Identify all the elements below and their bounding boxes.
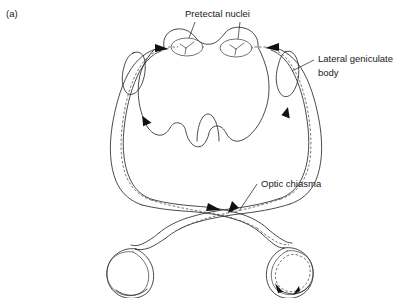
label-pretectal-nuclei: Pretectal nuclei	[185, 8, 250, 19]
pretectal-nucleus-right-marking	[230, 43, 244, 55]
leader-lateral-geniculate	[292, 60, 314, 71]
optic-tract-left-outer-edge	[110, 48, 160, 205]
lateral-geniculate-left-outline	[122, 52, 145, 94]
leader-pretectal-right	[238, 22, 240, 39]
eyeball-right	[266, 248, 313, 298]
lateral-geniculate-left	[122, 52, 145, 94]
pretectal-nucleus-right	[220, 39, 252, 57]
label-optic-chiasma: Optic chiasma	[261, 178, 322, 189]
eyeball-left	[107, 249, 154, 298]
eyeball-left-cornea-edge	[116, 289, 147, 295]
eyeball-right-retina-dashed	[275, 254, 310, 291]
chiasma-arrowhead-left	[206, 203, 221, 211]
optic-tract-left-fibre	[121, 49, 162, 200]
optic-nerve-right	[257, 228, 292, 248]
label-lateral-geniculate-body-line1: Lateral geniculate	[318, 53, 393, 64]
optic-nerve-right-upper	[269, 230, 292, 243]
optic-tract-left-inner-edge	[123, 51, 161, 200]
pretectal-nucleus-left-marking	[180, 42, 194, 54]
lateral-geniculate-right	[276, 51, 299, 97]
eyeball-left-sclera-inner	[107, 252, 149, 296]
optic-chiasma	[142, 199, 290, 238]
optic-tract-left-arrowhead	[139, 113, 151, 126]
lateral-geniculate-right-outline	[276, 51, 299, 97]
eyeball-right-arrowhead-left	[275, 283, 283, 293]
optic-nerve-left-upper	[131, 233, 159, 246]
optic-tract-left	[110, 44, 178, 205]
chiasma-fibre-crossing-b	[178, 199, 281, 230]
optic-nerve-right-fibre	[257, 228, 289, 245]
visual-pathway-diagram: (a)	[0, 0, 400, 298]
eyeball-right-sclera-outer	[266, 248, 313, 298]
panel-tag: (a)	[6, 8, 18, 19]
figure-container: (a)	[0, 0, 400, 298]
chiasma-band-left-lower	[142, 205, 261, 233]
optic-nerve-right-lower	[261, 233, 284, 248]
label-lateral-geniculate-body-line2: body	[318, 67, 339, 78]
pretectal-right-arrowhead	[265, 43, 279, 51]
pretectal-nucleus-left	[171, 38, 203, 56]
eyeball-left-sclera-outer	[107, 249, 154, 298]
optic-nerve-left	[131, 233, 166, 250]
optic-tract-right-arrowhead	[281, 106, 293, 119]
pretectal-left-arrowhead	[155, 44, 169, 52]
optic-tract-right-fibre	[270, 48, 311, 199]
pretectal-nucleus-right-outline	[220, 39, 252, 57]
